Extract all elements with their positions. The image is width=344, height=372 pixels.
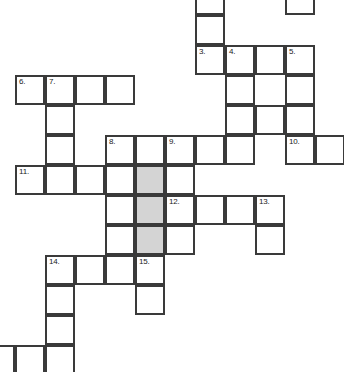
crossword-cell[interactable] [75, 165, 105, 195]
crossword-cell-number: 5. [289, 47, 295, 56]
crossword-cell[interactable]: 15. [135, 255, 165, 285]
crossword-cell[interactable] [45, 345, 75, 372]
crossword-cell-number: 4. [229, 47, 235, 56]
crossword-grid: 3.4.5.6.7.8.9.10.11.12.13.14.15. [0, 0, 344, 372]
crossword-cell[interactable]: 12. [165, 195, 195, 225]
crossword-cell[interactable] [75, 255, 105, 285]
crossword-cell-number: 13. [259, 197, 270, 206]
crossword-cell[interactable]: 3. [195, 45, 225, 75]
crossword-cell[interactable] [195, 15, 225, 45]
crossword-cell[interactable]: 9. [165, 135, 195, 165]
crossword-cell[interactable] [285, 75, 315, 105]
crossword-cell[interactable] [315, 135, 344, 165]
crossword-cell[interactable] [45, 285, 75, 315]
crossword-cell[interactable] [135, 135, 165, 165]
crossword-cell[interactable] [165, 225, 195, 255]
crossword-cell-shaded[interactable] [135, 225, 165, 255]
crossword-cell[interactable] [105, 255, 135, 285]
crossword-cell[interactable]: 4. [225, 45, 255, 75]
crossword-cell-shaded[interactable] [135, 195, 165, 225]
crossword-cell-number: 12. [169, 197, 180, 206]
crossword-cell[interactable] [195, 195, 225, 225]
crossword-cell[interactable]: 11. [15, 165, 45, 195]
crossword-cell[interactable] [75, 75, 105, 105]
crossword-cell[interactable] [195, 135, 225, 165]
crossword-cell[interactable] [255, 105, 285, 135]
crossword-cell[interactable]: 5. [285, 45, 315, 75]
crossword-cell-number: 8. [109, 137, 115, 146]
crossword-cell-shaded[interactable] [135, 165, 165, 195]
crossword-cell[interactable] [45, 165, 75, 195]
crossword-cell[interactable] [0, 345, 15, 372]
crossword-cell-number: 9. [169, 137, 175, 146]
crossword-cell[interactable] [45, 135, 75, 165]
crossword-cell[interactable] [225, 75, 255, 105]
crossword-cell[interactable] [105, 225, 135, 255]
crossword-cell-number: 3. [199, 47, 205, 56]
crossword-cell[interactable] [165, 165, 195, 195]
crossword-cell-number: 7. [49, 77, 55, 86]
crossword-cell-number: 6. [19, 77, 25, 86]
crossword-cell[interactable]: 6. [15, 75, 45, 105]
crossword-cell-number: 14. [49, 257, 60, 266]
crossword-cell[interactable] [285, 0, 315, 15]
crossword-cell[interactable] [45, 315, 75, 345]
crossword-cell-number: 10. [289, 137, 300, 146]
crossword-cell[interactable] [225, 135, 255, 165]
crossword-cell[interactable] [105, 75, 135, 105]
crossword-cell[interactable] [225, 195, 255, 225]
crossword-cell[interactable]: 8. [105, 135, 135, 165]
crossword-cell[interactable] [105, 195, 135, 225]
crossword-cell[interactable]: 7. [45, 75, 75, 105]
crossword-cell[interactable] [255, 45, 285, 75]
crossword-cell[interactable] [255, 225, 285, 255]
crossword-cell[interactable]: 14. [45, 255, 75, 285]
crossword-cell-number: 11. [19, 167, 29, 176]
crossword-cell[interactable] [225, 105, 255, 135]
crossword-cell-number: 15. [139, 257, 150, 266]
crossword-cell[interactable] [285, 105, 315, 135]
crossword-cell[interactable] [15, 345, 45, 372]
crossword-cell[interactable]: 10. [285, 135, 315, 165]
crossword-cell[interactable] [135, 285, 165, 315]
crossword-cell[interactable] [105, 165, 135, 195]
crossword-cell[interactable] [195, 0, 225, 15]
crossword-cell[interactable]: 13. [255, 195, 285, 225]
crossword-cell[interactable] [45, 105, 75, 135]
